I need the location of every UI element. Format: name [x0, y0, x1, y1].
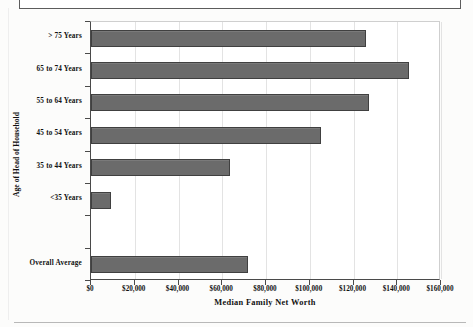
plot-area: [90, 21, 440, 280]
bar-row: [91, 54, 439, 86]
bar-row: [91, 152, 439, 184]
bar: [91, 159, 230, 176]
bar-row: [91, 22, 439, 54]
y-axis-tick-label: > 75 Years: [0, 33, 82, 40]
y-axis-tick-label: Overall Average: [0, 260, 82, 267]
bar-row: [91, 184, 439, 216]
y-axis-tick-label: 45 to 54 Years: [0, 130, 82, 137]
bar-row: [91, 87, 439, 119]
y-axis-labels: > 75 Years65 to 74 Years55 to 64 Years45…: [0, 21, 82, 280]
bar-chart-figure: Age of Head of Household > 75 Years65 to…: [0, 0, 473, 327]
bar-row: [91, 119, 439, 151]
x-axis-tick-label: $160,000: [410, 286, 470, 293]
bar: [91, 256, 248, 273]
x-axis-title: Median Family Net Worth: [90, 298, 440, 307]
y-axis-tick-label: 65 to 74 Years: [0, 66, 82, 73]
y-axis-tick-label: <35 Years: [0, 195, 82, 202]
gridline: [441, 22, 442, 279]
bar: [91, 62, 409, 79]
bars-layer: [91, 22, 439, 279]
bar: [91, 30, 366, 47]
bar: [91, 192, 111, 209]
bar-row: [91, 216, 439, 248]
bar-row: [91, 249, 439, 281]
bar: [91, 94, 369, 111]
y-axis-tick-label: 55 to 64 Years: [0, 98, 82, 105]
y-axis-tick-label: 35 to 44 Years: [0, 163, 82, 170]
bar: [91, 127, 321, 144]
